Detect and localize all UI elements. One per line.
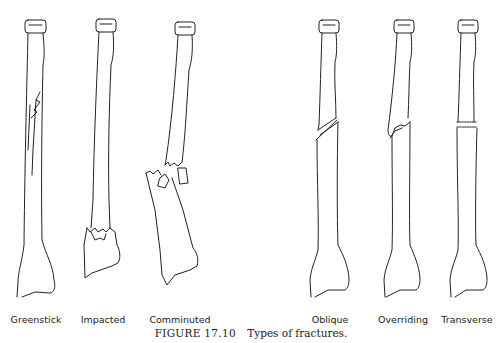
- bone-comminuted: [146, 22, 198, 285]
- fracture-types-figure: Greenstick Impacted Comminuted Oblique O…: [0, 0, 502, 343]
- bone-greenstick: [17, 20, 55, 297]
- bone-transverse: [450, 20, 487, 297]
- fracture-illustrations: [0, 0, 502, 343]
- label-overriding: Overriding: [378, 314, 428, 325]
- figure-title: Types of fractures.: [247, 327, 347, 339]
- figure-caption: FIGURE 17.10 Types of fractures.: [0, 327, 502, 339]
- label-transverse: Transverse: [441, 314, 492, 325]
- label-comminuted: Comminuted: [149, 314, 210, 325]
- bone-oblique: [310, 20, 349, 297]
- bone-impacted: [84, 19, 120, 278]
- label-greenstick: Greenstick: [11, 314, 62, 325]
- label-impacted: Impacted: [81, 314, 126, 325]
- bone-overriding: [384, 20, 420, 297]
- figure-number: FIGURE 17.10: [155, 327, 236, 339]
- label-oblique: Oblique: [312, 314, 349, 325]
